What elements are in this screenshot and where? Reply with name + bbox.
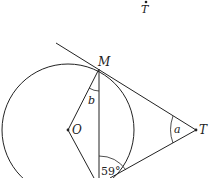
label-angle-59: 59° xyxy=(101,165,121,178)
label-m: M xyxy=(97,55,111,69)
label-t: T xyxy=(199,123,208,137)
line-o-lower xyxy=(68,130,94,178)
geometry-diagram: T M O T b a 59° xyxy=(0,0,210,178)
stray-label-t: T xyxy=(141,3,150,16)
point-o-dot xyxy=(67,129,70,132)
label-angle-a: a xyxy=(174,123,181,136)
circle xyxy=(2,64,134,178)
label-o: O xyxy=(72,123,82,137)
angle-arc-a xyxy=(171,116,174,143)
label-angle-b: b xyxy=(88,94,95,107)
tangent-line-mt xyxy=(56,43,196,130)
angle-arc-b xyxy=(89,88,99,91)
point-t-dot xyxy=(195,129,198,132)
line-t-lower xyxy=(110,130,196,178)
